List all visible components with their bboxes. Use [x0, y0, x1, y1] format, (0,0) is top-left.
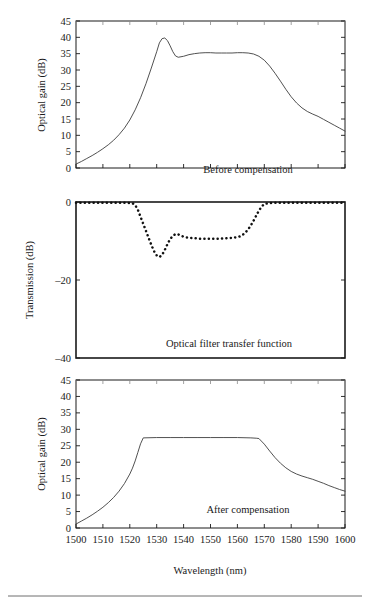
panel-before-compensation: 051015202530354045 Optical gain (dB) Bef… [36, 16, 345, 175]
filter-transmission-curve [76, 203, 345, 257]
xtick-label: 1570 [254, 534, 275, 545]
middle-panel-yticks [76, 202, 345, 358]
ytick-label: –20 [54, 275, 71, 286]
ytick-label: 35 [61, 48, 72, 59]
xtick-label: 1590 [308, 534, 329, 545]
ytick-label: 25 [61, 81, 72, 92]
top-panel-ylabel: Optical gain (dB) [36, 58, 48, 132]
xtick-label: 1520 [119, 534, 140, 545]
panel-filter-transfer-function: –40–200 Transmission (dB) Optical filter… [24, 197, 345, 364]
ytick-label: 5 [66, 506, 71, 517]
ytick-label: 40 [61, 32, 72, 43]
xtick-label: 1510 [92, 534, 113, 545]
bottom-panel-xtick-labels: 1500151015201530154015501560157015801590… [66, 534, 356, 545]
xtick-label: 1500 [66, 534, 87, 545]
top-panel-annotation: Before compensation [203, 164, 293, 175]
ytick-label: 5 [66, 146, 71, 157]
xtick-label: 1550 [200, 534, 221, 545]
ytick-label: 45 [61, 375, 72, 386]
figure-container: 051015202530354045 Optical gain (dB) Bef… [0, 0, 370, 608]
xtick-label: 1560 [227, 534, 248, 545]
top-panel-ytick-labels: 051015202530354045 [61, 16, 72, 174]
ytick-label: 0 [66, 197, 71, 208]
multi-panel-figure: 051015202530354045 Optical gain (dB) Bef… [0, 0, 370, 608]
ytick-label: 10 [61, 490, 72, 501]
ytick-label: 0 [66, 523, 71, 534]
middle-panel-annotation: Optical filter transfer function [166, 338, 293, 349]
ytick-label: 0 [66, 163, 71, 174]
ytick-label: 30 [61, 424, 72, 435]
top-panel-frame [76, 21, 345, 168]
ytick-label: 20 [61, 457, 72, 468]
shared-xlabel: Wavelength (nm) [174, 565, 247, 577]
ytick-label: 45 [61, 16, 72, 27]
middle-panel-ylabel: Transmission (dB) [24, 240, 36, 319]
ytick-label: 40 [61, 391, 72, 402]
ytick-label: 25 [61, 440, 72, 451]
ytick-label: 10 [61, 130, 72, 141]
top-panel-yticks [76, 21, 345, 168]
xtick-label: 1600 [335, 534, 356, 545]
xtick-label: 1530 [146, 534, 167, 545]
ytick-label: 35 [61, 407, 72, 418]
middle-panel-ytick-labels: –40–200 [54, 197, 71, 364]
bottom-panel-annotation: After compensation [206, 504, 290, 515]
xtick-label: 1540 [173, 534, 194, 545]
top-panel-xticks [76, 21, 345, 168]
bottom-panel-ylabel: Optical gain (dB) [36, 417, 48, 491]
middle-panel-frame [76, 202, 345, 358]
bottom-panel-ytick-labels: 051015202530354045 [61, 375, 72, 534]
optical-gain-before-curve [76, 38, 345, 164]
panel-after-compensation: 051015202530354045 150015101520153015401… [36, 375, 356, 577]
xtick-label: 1580 [281, 534, 302, 545]
ytick-label: 15 [61, 473, 72, 484]
ytick-label: 30 [61, 65, 72, 76]
ytick-label: 20 [61, 97, 72, 108]
ytick-label: –40 [54, 353, 71, 364]
ytick-label: 15 [61, 114, 72, 125]
